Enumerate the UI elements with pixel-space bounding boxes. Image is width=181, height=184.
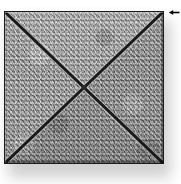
arrow-left-icon[interactable]	[169, 9, 180, 16]
stone-texture-fill	[5, 12, 163, 163]
textured-square-tile[interactable]	[4, 11, 164, 164]
figure-canvas	[0, 0, 181, 184]
